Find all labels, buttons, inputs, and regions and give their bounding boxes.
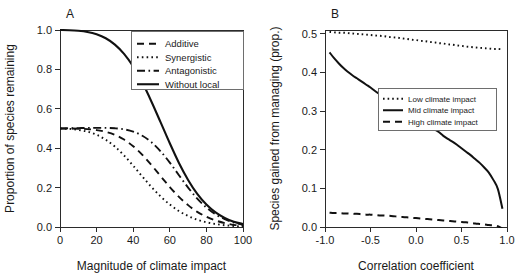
x-tick-label: -0.5 — [361, 234, 380, 246]
legend-label-antagonistic: Antagonistic — [165, 65, 217, 76]
y-tick-label: 0.0 — [37, 221, 52, 233]
legend-label-high-climate-impact: High climate impact — [408, 118, 479, 127]
y-axis-title: Proportion of species remaining — [3, 44, 17, 213]
y-tick-label: 0.5 — [302, 28, 317, 40]
y-tick-label: 0.2 — [37, 182, 52, 194]
y-tick-label: 0.3 — [302, 105, 317, 117]
y-tick-label: 0.1 — [302, 182, 317, 194]
panel-label-b: B — [331, 7, 339, 21]
x-axis-title: Correlation coefficient — [358, 259, 475, 273]
y-tick-label: 0.8 — [37, 63, 52, 75]
x-tick-label: 1.0 — [499, 234, 514, 246]
x-tick-label: 0.0 — [408, 234, 423, 246]
legend-label-low-climate-impact: Low climate impact — [408, 95, 477, 104]
series-line-antagonistic — [60, 128, 243, 225]
x-axis-title: Magnitude of climate impact — [77, 259, 227, 273]
series-line-high-climate-impact — [330, 213, 503, 229]
y-tick-label: 0.0 — [302, 221, 317, 233]
x-tick-label: 100 — [234, 234, 252, 246]
x-tick-label: 0 — [57, 234, 63, 246]
legend-label-mid-climate-impact: Mid climate impact — [408, 106, 475, 115]
legend: AdditiveSynergisticAntagonisticWithout l… — [131, 31, 243, 90]
figure-container: 0204060801000.00.20.40.60.81.0Magnitude … — [0, 0, 527, 280]
x-tick-label: 0.5 — [454, 234, 469, 246]
legend: Low climate impactMid climate impactHigh… — [378, 88, 496, 130]
y-tick-label: 0.4 — [302, 66, 317, 78]
x-tick-label: 80 — [200, 234, 212, 246]
series-line-mid-climate-impact — [330, 52, 503, 208]
legend-label-additive: Additive — [165, 38, 199, 49]
y-axis-title: Species gained from managing (prop.) — [268, 26, 282, 230]
x-tick-label: -1.0 — [316, 234, 335, 246]
series-line-low-climate-impact — [330, 32, 503, 49]
x-tick-label: 60 — [164, 234, 176, 246]
legend-label-synergistic: Synergistic — [165, 52, 212, 63]
y-tick-label: 0.2 — [302, 144, 317, 156]
y-tick-label: 0.6 — [37, 103, 52, 115]
figure-svg: 0204060801000.00.20.40.60.81.0Magnitude … — [0, 0, 527, 280]
x-tick-label: 20 — [90, 234, 102, 246]
panel-b: -1.0-0.50.00.51.00.00.10.20.30.40.5Corre… — [268, 7, 515, 273]
panel-label-a: A — [66, 7, 74, 21]
x-tick-label: 40 — [127, 234, 139, 246]
y-tick-label: 1.0 — [37, 24, 52, 36]
y-tick-label: 0.4 — [37, 142, 52, 154]
legend-label-without-local: Without local — [165, 79, 219, 90]
panel-a: 0204060801000.00.20.40.60.81.0Magnitude … — [3, 7, 252, 273]
